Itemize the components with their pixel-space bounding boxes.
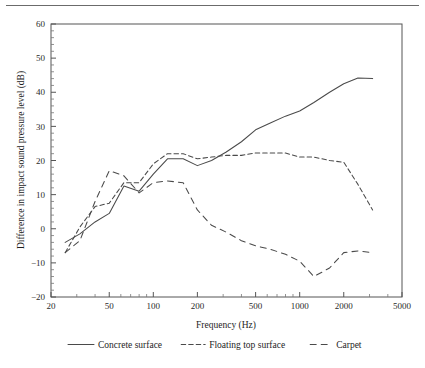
y-tick-label: 40 xyxy=(36,87,46,97)
x-tick-label: 5000 xyxy=(393,301,412,311)
legend-label-carpet: Carpet xyxy=(336,340,362,350)
y-tick-label: 0 xyxy=(41,224,46,234)
chart-svg: −20−100102030405060 20501002005001000200… xyxy=(0,0,425,368)
y-tick-label: 10 xyxy=(36,190,46,200)
y-tick-label: 50 xyxy=(36,53,46,63)
x-tick-label: 20 xyxy=(47,301,57,311)
x-tick-label: 100 xyxy=(147,301,161,311)
y-tick-label: −20 xyxy=(31,292,46,302)
x-tick-label: 2000 xyxy=(335,301,354,311)
x-tick-label: 1000 xyxy=(291,301,310,311)
y-tick-label: −10 xyxy=(31,258,46,268)
chart-legend: Concrete surfaceFloating top surfaceCarp… xyxy=(68,340,362,350)
chart-figure: −20−100102030405060 20501002005001000200… xyxy=(0,0,425,368)
y-tick-label: 20 xyxy=(36,156,46,166)
x-tick-label: 500 xyxy=(249,301,263,311)
legend-label-floating-top-surface: Floating top surface xyxy=(209,340,285,350)
y-axis-title: Difference in impact sound pressure leve… xyxy=(16,71,27,249)
y-tick-label: 60 xyxy=(36,19,46,29)
plot-area-border xyxy=(51,24,402,297)
plot-frame xyxy=(51,24,402,297)
x-tick-label: 50 xyxy=(105,301,115,311)
x-tick-label: 200 xyxy=(191,301,205,311)
legend-label-concrete-surface: Concrete surface xyxy=(98,340,162,350)
x-axis-title: Frequency (Hz) xyxy=(196,320,256,331)
y-tick-label: 30 xyxy=(36,122,46,132)
